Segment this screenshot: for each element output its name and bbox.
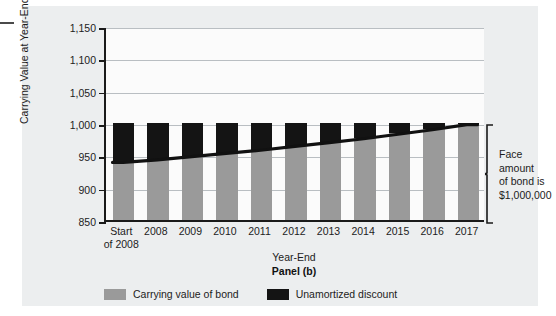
bar bbox=[320, 28, 341, 220]
bar-segment-carrying-value bbox=[182, 156, 203, 220]
annotation-line: of bond is bbox=[499, 175, 556, 189]
bar-segment-carrying-value bbox=[354, 138, 375, 220]
y-axis-tick-label: 1,150 bbox=[70, 22, 96, 34]
y-axis-tick-label: 950 bbox=[78, 151, 96, 163]
face-amount-brace bbox=[485, 124, 495, 224]
bar-segment-carrying-value bbox=[285, 146, 306, 220]
bar-segment-carrying-value bbox=[251, 150, 272, 220]
bar-segment-unamortized-discount bbox=[354, 123, 375, 138]
bar bbox=[285, 28, 306, 220]
bar bbox=[113, 28, 134, 220]
y-axis-tick bbox=[99, 190, 106, 192]
y-axis-tick-label: 1,050 bbox=[70, 87, 96, 99]
panel-label: Panel (b) bbox=[104, 265, 484, 277]
chart-card: Carrying Value at Year-End ($000) 850900… bbox=[22, 6, 538, 306]
bar bbox=[423, 28, 444, 220]
annotation-line: $1,000,000 bbox=[499, 189, 556, 203]
y-axis-tick bbox=[99, 93, 106, 95]
bar-segment-carrying-value bbox=[320, 142, 341, 220]
bar-segment-unamortized-discount bbox=[389, 123, 410, 133]
bar-segment-unamortized-discount bbox=[113, 123, 134, 162]
bar-segment-unamortized-discount bbox=[251, 123, 272, 150]
annotation-line: Face bbox=[499, 148, 556, 162]
y-axis-tick-label: 900 bbox=[78, 184, 96, 196]
legend-label-unamortized-discount: Unamortized discount bbox=[296, 288, 398, 300]
bar bbox=[182, 28, 203, 220]
y-axis-tick-label: 1,100 bbox=[70, 54, 96, 66]
legend-label-carrying-value: Carrying value of bond bbox=[133, 288, 239, 300]
y-axis-tick bbox=[99, 125, 106, 127]
bar-segment-unamortized-discount bbox=[458, 123, 479, 124]
page-edge-mark bbox=[0, 22, 14, 24]
bar bbox=[251, 28, 272, 220]
plot-area: 8509009501,0001,0501,1001,150 bbox=[104, 28, 484, 222]
bar bbox=[216, 28, 237, 220]
bar bbox=[354, 28, 375, 220]
bar-segment-carrying-value bbox=[458, 124, 479, 220]
x-axis-tick-label-line: of 2008 bbox=[98, 238, 145, 251]
x-axis-tick-label-line: 2017 bbox=[443, 225, 490, 238]
y-axis-tick bbox=[99, 28, 106, 30]
bar bbox=[458, 28, 479, 220]
annotation-line: amount bbox=[499, 162, 556, 176]
bar-segment-unamortized-discount bbox=[182, 123, 203, 156]
face-amount-annotation: Faceamountof bond is$1,000,000 bbox=[499, 148, 556, 202]
bar bbox=[147, 28, 168, 220]
plot-inner bbox=[106, 28, 484, 220]
bar-segment-carrying-value bbox=[147, 159, 168, 220]
y-axis-tick-label: 850 bbox=[78, 216, 96, 228]
y-axis-tick bbox=[99, 157, 106, 159]
bar-segment-unamortized-discount bbox=[216, 123, 237, 153]
bar-segment-carrying-value bbox=[216, 153, 237, 220]
x-axis-tick-label: 2017 bbox=[443, 225, 490, 238]
legend-swatch-unamortized-discount bbox=[267, 289, 289, 300]
bar-segment-unamortized-discount bbox=[320, 123, 341, 142]
bar-segment-carrying-value bbox=[423, 129, 444, 220]
y-axis-tick-label: 1,000 bbox=[70, 119, 96, 131]
y-axis-title: Carrying Value at Year-End ($000) bbox=[18, 0, 30, 124]
chart-legend: Carrying value of bond Unamortized disco… bbox=[104, 286, 504, 302]
bar-segment-carrying-value bbox=[113, 162, 134, 220]
bar-segment-unamortized-discount bbox=[423, 123, 444, 129]
y-axis-tick bbox=[99, 222, 106, 224]
bar-segment-unamortized-discount bbox=[147, 123, 168, 159]
x-axis-title: Year-End bbox=[104, 251, 484, 263]
y-axis-tick bbox=[99, 60, 106, 62]
bar bbox=[389, 28, 410, 220]
bar-segment-carrying-value bbox=[389, 133, 410, 220]
bar-segment-unamortized-discount bbox=[285, 123, 306, 146]
legend-swatch-carrying-value bbox=[104, 289, 126, 300]
